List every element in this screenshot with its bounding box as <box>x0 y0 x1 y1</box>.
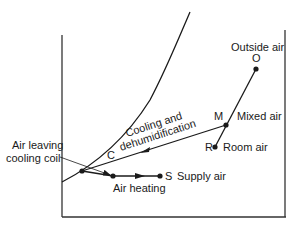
room-air-label: Room air <box>223 141 268 153</box>
psychrometric-diagram: Outside air O M Mixed air R Room air C S… <box>0 0 295 229</box>
mixed-air-label: Mixed air <box>237 110 282 122</box>
cooling-arrowhead <box>140 147 150 153</box>
air-leaving-label-line1: Air leaving <box>12 139 63 151</box>
point-r-marker <box>212 144 217 149</box>
point-o-marker <box>253 66 258 71</box>
leader-line <box>60 157 110 175</box>
point-c-label: C <box>107 149 115 161</box>
apparatus-line <box>82 171 113 176</box>
heating-arrowhead <box>135 173 145 179</box>
point-m-label: M <box>214 110 223 122</box>
apparatus-dewpoint-marker <box>79 168 84 173</box>
outside-to-room-line <box>215 69 256 147</box>
point-s-marker <box>157 173 162 178</box>
supply-air-label: Supply air <box>177 170 226 182</box>
air-leaving-label-line2: cooling coil <box>6 152 60 164</box>
point-c-marker <box>110 173 115 178</box>
point-m-marker <box>223 122 228 127</box>
point-s-label: S <box>165 170 172 182</box>
point-o-label: O <box>252 52 261 64</box>
air-heating-label: Air heating <box>113 182 166 194</box>
point-r-label: R <box>205 141 213 153</box>
